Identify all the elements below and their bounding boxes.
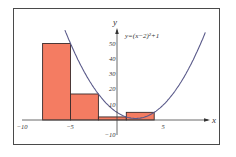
equation-label: y=(x−2)²+1: [124, 32, 159, 40]
riemann-sum-chart: −10−55 −101020304050 x y y=(x−2)²+1: [0, 0, 236, 157]
riemann-bar: [126, 112, 154, 120]
x-axis-arrow-icon: [204, 118, 210, 122]
y-axis-label: y: [112, 17, 117, 27]
y-tick-label: 10: [109, 101, 116, 108]
riemann-bars: [43, 44, 155, 121]
y-axis-arrow-icon: [115, 28, 119, 34]
x-tick-label: −10: [17, 123, 29, 130]
y-tick-label: 40: [109, 55, 116, 62]
y-tick-label: 30: [108, 70, 116, 77]
riemann-bar: [71, 94, 99, 120]
x-axis-label: x: [211, 115, 216, 125]
y-tick-labels: −101020304050: [105, 40, 117, 139]
x-tick-labels: −10−55: [17, 123, 166, 130]
y-tick-label: 50: [109, 40, 116, 47]
riemann-bar: [98, 117, 126, 120]
riemann-bar: [43, 44, 71, 121]
x-tick-label: −5: [66, 123, 74, 130]
x-tick-label: 5: [161, 123, 165, 130]
y-tick-label: 20: [109, 85, 116, 92]
y-tick-label: −10: [105, 131, 117, 138]
